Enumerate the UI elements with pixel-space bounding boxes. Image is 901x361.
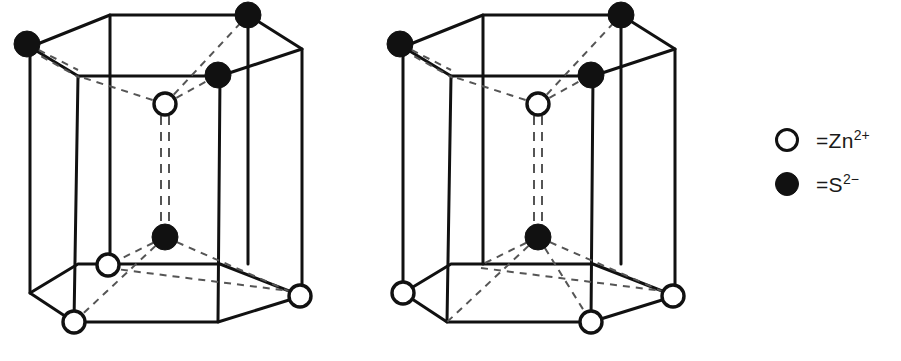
legend-label-zinc: =Zn2+ (816, 127, 870, 153)
zinc-ion-interior-upper (527, 93, 549, 115)
zns-crystal-structure-figure (0, 0, 901, 361)
legend-zinc-symbol: Zn (829, 129, 854, 152)
legend-row-sulfide: =S2− (775, 162, 901, 206)
legend-label-sulfide: =S2− (816, 171, 859, 197)
sulfide-ion-marker-icon (775, 172, 799, 196)
sulfide-ion-top-left (14, 31, 40, 57)
legend-row-zinc: =Zn2+ (775, 118, 901, 162)
zinc-ion-interior-upper (154, 93, 176, 115)
legend-zinc-text: = (816, 129, 829, 152)
zinc-ion-bottom-front-left (392, 282, 414, 304)
sulfide-ion-top-front-right (205, 62, 231, 88)
sulfide-ion-top-front-right (578, 62, 604, 88)
legend-sulfide-charge: 2− (843, 171, 859, 187)
sulfide-ion-top-back-right (235, 2, 261, 28)
zinc-ion-bottom-front-left (63, 311, 85, 333)
zinc-ion-bottom-right (289, 285, 311, 307)
zinc-ion-bottom-back-left (97, 254, 119, 276)
zinc-ion-bottom-front (580, 311, 602, 333)
legend-zinc-charge: 2+ (854, 127, 870, 143)
sulfide-ion-interior-lower (525, 224, 551, 250)
sulfide-ion-top-left (387, 31, 413, 57)
legend: =Zn2+ =S2− (775, 118, 901, 223)
legend-sulfide-text: = (816, 173, 829, 196)
sulfide-ion-top-back-right (608, 2, 634, 28)
sulfide-ion-interior-lower (152, 224, 178, 250)
zinc-ion-marker-icon (775, 128, 799, 152)
vertical-edge-front-right (591, 76, 593, 322)
legend-sulfide-symbol: S (829, 173, 843, 196)
vertical-edge-front-right (218, 76, 220, 322)
zinc-ion-bottom-right (662, 285, 684, 307)
